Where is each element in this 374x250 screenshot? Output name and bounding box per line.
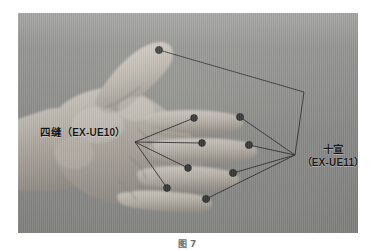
shixuan-code: （EX-UE11） bbox=[296, 157, 370, 168]
sifeng-code: （EX-UE10） bbox=[62, 127, 126, 138]
marker-ring-finger-tip-shixuan bbox=[229, 169, 236, 176]
sifeng-chinese-name: 四缝 bbox=[40, 127, 61, 139]
marker-index-finger-sifeng bbox=[191, 115, 198, 122]
hand-acupoint-photo bbox=[18, 13, 358, 233]
marker-thumb-tip-shixuan bbox=[155, 46, 162, 53]
figure-caption: 图 7 bbox=[0, 238, 374, 250]
figure-container: 四缝 （EX-UE10） 十宣 （EX-UE11） 图 7 bbox=[0, 0, 374, 250]
shixuan-chinese-name: 十宣 bbox=[296, 144, 370, 156]
marker-little-finger-tip-shixuan bbox=[202, 195, 209, 202]
hand-illustration bbox=[18, 13, 358, 233]
marker-little-finger-sifeng bbox=[164, 185, 171, 192]
marker-index-finger-tip-shixuan bbox=[236, 113, 243, 120]
index-finger bbox=[145, 110, 243, 134]
acupoint-label-shixuan: 十宣 （EX-UE11） bbox=[296, 144, 370, 168]
marker-middle-finger-sifeng bbox=[199, 140, 206, 147]
marker-ring-finger-sifeng bbox=[185, 165, 192, 172]
acupoint-label-sifeng: 四缝 （EX-UE10） bbox=[40, 127, 126, 139]
marker-middle-finger-tip-shixuan bbox=[245, 141, 252, 148]
